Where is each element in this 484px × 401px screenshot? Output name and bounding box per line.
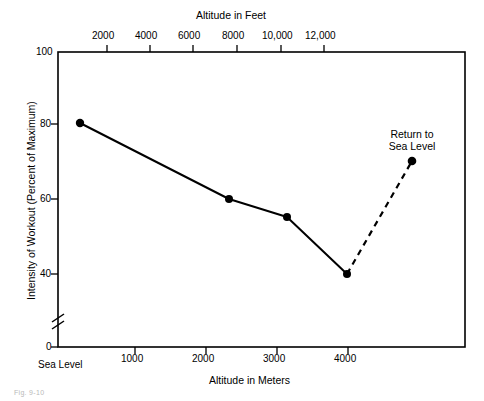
origin-label-sea-level: Sea Level — [38, 359, 82, 370]
top-axis-title: Altitude in Feet — [196, 10, 266, 21]
annotation-line-2: Sea Level — [376, 140, 448, 152]
data-point-2 — [225, 195, 233, 203]
bottom-axis-title: Altitude in Meters — [209, 375, 290, 386]
top-tick-label-6000: 6000 — [178, 30, 200, 41]
top-axis-ticks — [107, 45, 324, 52]
annotation-return-to-sea-level: Return to Sea Level — [376, 128, 448, 152]
plot-border — [58, 52, 465, 347]
top-tick-label-10000: 10,000 — [262, 30, 293, 41]
series-line-workout-intensity — [80, 123, 347, 274]
data-point-3 — [283, 213, 291, 221]
y-axis-ticks — [51, 124, 58, 347]
series-line-return-to-sea-level — [347, 161, 412, 274]
top-tick-label-4000: 4000 — [135, 30, 157, 41]
bottom-tick-label-4000: 4000 — [334, 353, 356, 364]
data-point-4 — [343, 270, 351, 278]
data-point-1 — [76, 119, 84, 127]
chart-canvas — [0, 0, 484, 401]
bottom-tick-label-2000: 2000 — [192, 353, 214, 364]
y-axis-title: Intensity of Workout (Percent of Maximum… — [26, 101, 37, 300]
figure-altitude-workout-intensity: Altitude in Feet 2000 4000 6000 8000 10,… — [0, 0, 484, 401]
figure-caption: Fig. 9-10 — [14, 389, 44, 396]
y-tick-label-60: 60 — [40, 193, 51, 204]
data-point-markers — [76, 119, 417, 278]
y-tick-label-80: 80 — [40, 118, 51, 129]
y-tick-label-100: 100 — [36, 46, 53, 57]
top-tick-label-2000: 2000 — [92, 30, 114, 41]
annotation-line-1: Return to — [376, 128, 448, 140]
plot-frame — [58, 52, 465, 347]
y-tick-label-0: 0 — [46, 341, 52, 352]
y-tick-label-40: 40 — [40, 268, 51, 279]
bottom-axis-ticks — [135, 347, 348, 354]
bottom-tick-label-3000: 3000 — [263, 353, 285, 364]
bottom-tick-label-1000: 1000 — [121, 353, 143, 364]
data-point-return — [408, 157, 417, 166]
top-tick-label-8000: 8000 — [222, 30, 244, 41]
top-tick-label-12000: 12,000 — [305, 30, 336, 41]
